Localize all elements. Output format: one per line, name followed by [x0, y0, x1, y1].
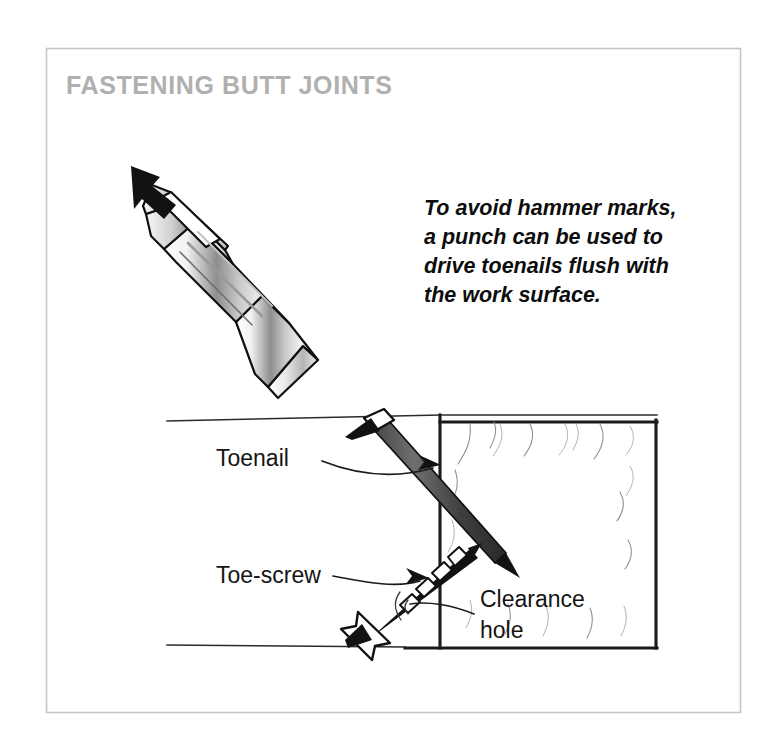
toe-screw-label: Toe-screw — [216, 562, 321, 588]
caption-line-2: a punch can be used to — [424, 225, 663, 249]
page-title: FASTENING BUTT JOINTS — [66, 71, 393, 99]
clearance-hole-label-line-2: hole — [480, 617, 523, 643]
illustration-canvas: FASTENING BUTT JOINTS To avoid hammer ma… — [0, 0, 779, 753]
caption-line-4: the work surface. — [424, 283, 601, 307]
toenail-label: Toenail — [216, 445, 289, 471]
figure-frame — [47, 49, 741, 713]
caption-line-1: To avoid hammer marks, — [424, 196, 677, 220]
technical-illustration: FASTENING BUTT JOINTS To avoid hammer ma… — [0, 0, 779, 753]
clearance-hole-label-line-1: Clearance — [480, 586, 585, 612]
caption-line-3: drive toenails flush with — [424, 254, 669, 278]
